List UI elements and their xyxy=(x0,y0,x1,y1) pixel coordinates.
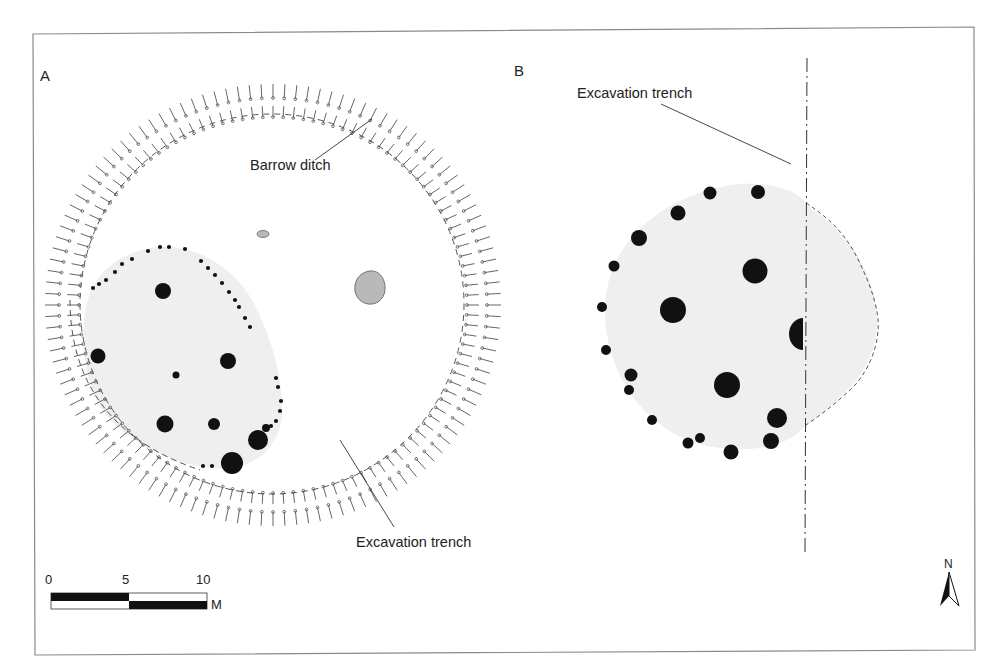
archaeological-plan-figure: A Barrow ditch Excavation trench B xyxy=(0,0,1001,672)
pit-large xyxy=(355,271,385,304)
north-label: N xyxy=(944,557,953,571)
panel-b-label: B xyxy=(514,62,524,79)
barrow-ditch-label: Barrow ditch xyxy=(250,157,331,173)
scale-tick-0: 0 xyxy=(45,572,52,587)
scale-tick-10: 10 xyxy=(196,572,210,587)
pit-small xyxy=(257,231,269,238)
scale-segment-1 xyxy=(51,593,129,601)
scale-tick-5: 5 xyxy=(122,572,129,587)
scale-unit: M xyxy=(211,597,222,612)
excavation-trench-b-label: Excavation trench xyxy=(577,85,692,101)
scale-segment-2 xyxy=(129,601,207,609)
panel-a-label: A xyxy=(40,67,50,84)
excavation-trench-a-label: Excavation trench xyxy=(356,534,471,550)
